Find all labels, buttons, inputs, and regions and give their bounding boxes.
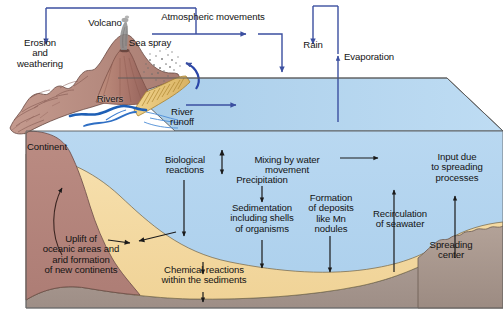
label-river-runoff: River runoff xyxy=(156,107,208,128)
label-sea-spray: Sea spray xyxy=(118,38,182,48)
label-rain: Rain xyxy=(294,40,332,50)
label-spreading-center: Spreading center xyxy=(422,240,480,261)
label-biological-reactions: Biological reactions xyxy=(154,155,216,176)
label-atmospheric-movements: Atmospheric movements xyxy=(151,12,275,22)
label-erosion-and-weathering: Erosion and weathering xyxy=(6,38,74,69)
label-rivers: Rivers xyxy=(86,94,134,104)
label-mixing-by-water-movement: Mixing by water movement xyxy=(232,155,342,176)
label-chemical-reactions: Chemical reactions within the sediments xyxy=(146,265,262,286)
label-input-due-to-spreading: Input due to spreading processes xyxy=(424,152,490,183)
geochemical-cycle-diagram: Volcano Sea spray Atmospheric movements … xyxy=(0,0,503,335)
label-precipitation: Precipitation xyxy=(226,175,298,185)
label-evaporation: Evaporation xyxy=(344,52,412,62)
label-uplift: Uplift of oceanic areas and arid formati… xyxy=(26,234,136,276)
label-formation-of-deposits: Formation of deposits like Mn nodules xyxy=(305,193,357,235)
label-recirculation-of-seawater: Recirculation of seawater xyxy=(367,209,433,230)
label-volcano: Volcano xyxy=(72,18,138,28)
label-continent: Continent xyxy=(14,142,80,152)
label-sedimentation: Sedimentation including shells of organi… xyxy=(221,203,303,234)
